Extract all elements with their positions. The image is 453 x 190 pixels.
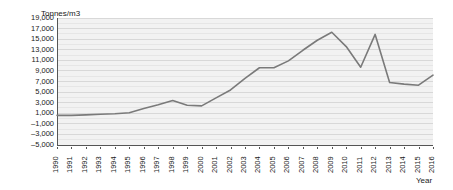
x-tick-label: 2004	[254, 156, 262, 173]
y-tick-label: 3,000	[18, 99, 54, 107]
x-tick-mark	[317, 147, 318, 149]
x-tick-mark	[173, 147, 174, 149]
y-tick-label: 5,000	[18, 88, 54, 96]
x-axis-title: Year	[416, 176, 432, 185]
x-tick-mark	[158, 147, 159, 149]
x-tick-mark	[288, 147, 289, 149]
x-tick-label: 2006	[283, 156, 291, 173]
y-tick-label: 9,000	[18, 67, 54, 75]
x-tick-label: 1998	[168, 156, 176, 173]
x-tick-label: 2007	[298, 156, 306, 173]
x-tick-label: 2000	[197, 156, 205, 173]
x-tick-mark	[86, 147, 87, 149]
x-tick-mark	[259, 147, 260, 149]
x-tick-label: 1993	[95, 156, 103, 173]
x-tick-label: 1994	[110, 156, 118, 173]
x-tick-label: 2005	[269, 156, 277, 173]
x-tick-mark	[202, 147, 203, 149]
line-chart: Tonnes/m3 19,00017,00015,00013,00011,000…	[0, 0, 453, 190]
x-tick-label: 2001	[211, 156, 219, 173]
x-tick-mark	[115, 147, 116, 149]
plot-area	[57, 18, 433, 145]
y-tick-label: –3,000	[18, 130, 54, 138]
x-tick-mark	[346, 147, 347, 149]
y-tick-label: 7,000	[18, 78, 54, 86]
x-tick-mark	[216, 147, 217, 149]
y-tick-label: 15,000	[18, 35, 54, 43]
x-tick-mark	[390, 147, 391, 149]
x-tick-mark	[231, 147, 232, 149]
x-tick-label: 2015	[414, 156, 422, 173]
x-tick-mark	[71, 147, 72, 149]
x-axis-tick-labels: 1990199119921993199419951996199719981999…	[57, 147, 433, 189]
x-tick-label: 1999	[182, 156, 190, 173]
x-tick-mark	[129, 147, 130, 149]
x-tick-mark	[245, 147, 246, 149]
x-tick-mark	[375, 147, 376, 149]
x-tick-label: 2002	[226, 156, 234, 173]
x-tick-label: 1992	[81, 156, 89, 173]
y-axis-tick-labels: 19,00017,00015,00013,00011,0009,0007,000…	[14, 0, 54, 190]
x-tick-label: 2016	[428, 156, 436, 173]
x-tick-label: 1996	[139, 156, 147, 173]
x-tick-mark	[404, 147, 405, 149]
y-tick-label: –5,000	[18, 141, 54, 149]
x-tick-label: 2011	[356, 157, 364, 173]
x-tick-mark	[274, 147, 275, 149]
x-tick-label: 1990	[52, 156, 60, 173]
x-tick-mark	[419, 147, 420, 149]
x-tick-label: 1997	[153, 156, 161, 173]
x-tick-mark	[57, 147, 58, 149]
x-tick-label: 2009	[327, 156, 335, 173]
x-tick-label: 2014	[399, 156, 407, 173]
x-tick-label: 2003	[240, 156, 248, 173]
series-line-tonnes-per-m3	[57, 18, 433, 145]
data-line	[57, 32, 433, 115]
x-tick-mark	[100, 147, 101, 149]
x-tick-label: 1995	[124, 156, 132, 173]
y-tick-label: 13,000	[18, 46, 54, 54]
x-tick-mark	[187, 147, 188, 149]
x-tick-mark	[144, 147, 145, 149]
x-tick-mark	[361, 147, 362, 149]
x-tick-mark	[332, 147, 333, 149]
y-tick-label: 19,000	[18, 14, 54, 22]
x-tick-label: 2010	[341, 156, 349, 173]
x-tick-label: 1991	[66, 156, 74, 173]
x-tick-label: 2013	[385, 156, 393, 173]
y-tick-label: 17,000	[18, 25, 54, 33]
y-tick-label: 1,000	[18, 109, 54, 117]
x-tick-label: 2012	[370, 156, 378, 173]
x-tick-mark	[303, 147, 304, 149]
y-tick-label: 11,000	[18, 56, 54, 64]
x-tick-label: 2008	[312, 156, 320, 173]
y-tick-label: –1,000	[18, 120, 54, 128]
x-tick-mark	[433, 147, 434, 149]
